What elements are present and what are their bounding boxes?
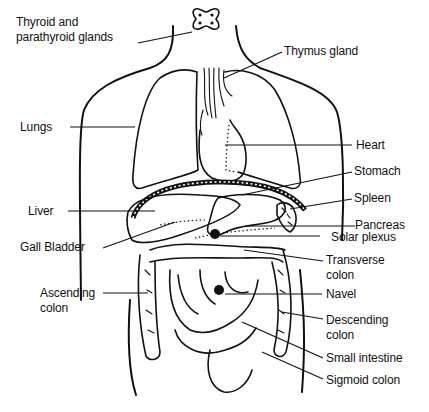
solar-plexus [210, 229, 220, 239]
label-spleen: Spleen [354, 191, 391, 206]
label-heart: Heart [356, 138, 385, 153]
label-solar-plexus: Solar plexus [331, 230, 396, 245]
thymus-vessels [201, 68, 232, 135]
label-transverse-colon: Transverse colon [326, 253, 385, 283]
navel [214, 285, 224, 295]
anatomy-diagram: Thyroid and parathyroid glands Thymus gl… [0, 0, 429, 412]
label-stomach: Stomach [354, 164, 401, 179]
label-line: colon [326, 328, 388, 343]
label-line: Thyroid and [16, 15, 113, 30]
stomach [195, 194, 285, 238]
label-line: colon [40, 301, 95, 316]
small-intestine [170, 270, 258, 392]
label-navel: Navel [326, 287, 356, 302]
label-liver: Liver [28, 204, 54, 219]
label-thymus: Thymus gland [284, 44, 358, 59]
thyroid-gland [193, 9, 219, 30]
label-line: Ascending [40, 286, 95, 301]
leader-lines [68, 32, 355, 379]
lungs [133, 70, 301, 189]
label-lungs: Lungs [20, 120, 52, 135]
label-line: Descending [326, 313, 388, 328]
label-sigmoid-colon: Sigmoid colon [326, 373, 400, 388]
label-ascending-colon: Ascending colon [40, 286, 95, 316]
label-line: parathyroid glands [16, 30, 113, 45]
label-thyroid: Thyroid and parathyroid glands [16, 15, 113, 45]
label-line: Transverse [326, 253, 385, 268]
label-small-intestine: Small intestine [326, 351, 403, 366]
label-descending-colon: Descending colon [326, 313, 388, 343]
label-line: colon [326, 268, 385, 283]
large-intestine [138, 244, 291, 359]
label-gall-bladder: Gall Bladder [20, 240, 85, 255]
